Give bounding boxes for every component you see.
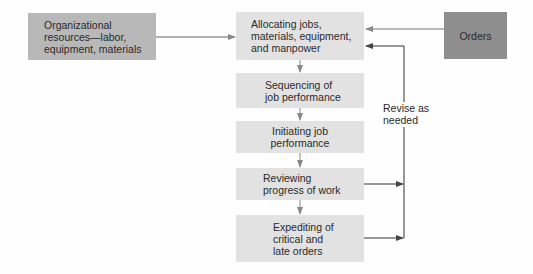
step-reviewing-label: Reviewing progress of work (263, 172, 341, 196)
step-allocating: Allocating jobs, materials, equipment, a… (236, 12, 364, 60)
step-expediting: Expediting of critical and late orders (236, 215, 364, 262)
step-reviewing: Reviewing progress of work (236, 168, 364, 200)
feedback-loop-top (366, 46, 404, 102)
resources-label: Organizational resources—labor, equipmen… (44, 19, 141, 55)
step-sequencing-label: Sequencing of job performance (265, 79, 341, 103)
step-expediting-label: Expediting of critical and late orders (273, 221, 334, 257)
step-allocating-label: Allocating jobs, materials, equipment, a… (251, 18, 351, 54)
step-sequencing: Sequencing of job performance (236, 73, 364, 108)
resources-box: Organizational resources—labor, equipmen… (28, 13, 156, 60)
orders-label: Orders (459, 30, 491, 42)
step-initiating-label: Initiating job performance (271, 125, 330, 149)
orders-box: Orders (444, 12, 507, 59)
feedback-label: Revise as needed (383, 102, 429, 126)
step-initiating: Initiating job performance (236, 121, 364, 153)
flow-diagram: Organizational resources—labor, equipmen… (0, 0, 533, 274)
